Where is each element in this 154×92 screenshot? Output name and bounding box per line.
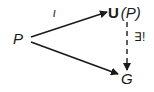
u-symbol: U bbox=[108, 4, 119, 21]
inclusion-arrow bbox=[31, 12, 107, 37]
map-arrow bbox=[31, 42, 118, 74]
commutative-diagram: P U(P) G ι ∃! bbox=[0, 0, 154, 92]
node-u-of-p: U(P) bbox=[108, 5, 141, 20]
node-g: G bbox=[121, 71, 133, 86]
u-argument: (P) bbox=[121, 4, 141, 21]
node-p: P bbox=[13, 31, 23, 46]
unique-exists-label: ∃! bbox=[134, 31, 145, 43]
iota-label: ι bbox=[53, 7, 56, 19]
